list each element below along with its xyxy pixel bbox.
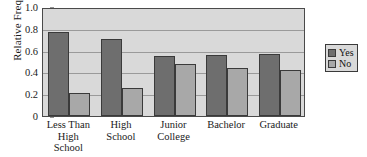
x-axis-label-line: College xyxy=(141,131,206,143)
y-tick-label: 0.8 xyxy=(12,25,38,36)
y-tick-label: 0.6 xyxy=(12,46,38,57)
bar-yes xyxy=(48,32,69,116)
bar-chart: Relative Frequency 00.20.40.60.81.0 Less… xyxy=(0,0,367,157)
bar-group xyxy=(154,9,196,116)
bar-no xyxy=(69,93,90,116)
legend-label: No xyxy=(339,58,351,69)
legend-label: Yes xyxy=(339,47,354,58)
y-tick-label: 0.2 xyxy=(12,90,38,101)
x-axis-label: Graduate xyxy=(246,119,311,131)
y-tick-label: 0.4 xyxy=(12,68,38,79)
bar-group xyxy=(101,9,143,116)
legend-item: No xyxy=(328,58,354,69)
bar-group xyxy=(206,9,248,116)
bar-yes xyxy=(259,54,280,116)
bar-no xyxy=(175,64,196,116)
y-axis-ticks: 00.20.40.60.81.0 xyxy=(12,0,38,157)
legend-item: Yes xyxy=(328,47,354,58)
x-axis-label-line: Graduate xyxy=(246,119,311,131)
bar-yes xyxy=(101,39,122,116)
bar-no xyxy=(227,68,248,116)
bar-group xyxy=(259,9,301,116)
x-axis-label-line: School xyxy=(36,142,101,154)
y-tick-label: 0 xyxy=(12,112,38,123)
bar-yes xyxy=(154,56,175,116)
y-tick-label: 1.0 xyxy=(12,3,38,14)
plot-area xyxy=(42,8,305,117)
bar-yes xyxy=(206,55,227,116)
bar-no xyxy=(280,70,301,116)
x-axis-labels: Less ThanHighSchoolHighSchoolJuniorColle… xyxy=(42,119,305,157)
legend-swatch-yes xyxy=(328,49,336,57)
bar-group xyxy=(48,9,90,116)
bar-no xyxy=(122,88,143,116)
legend: YesNo xyxy=(325,44,358,72)
bars-layer xyxy=(43,9,304,116)
legend-swatch-no xyxy=(328,60,336,68)
